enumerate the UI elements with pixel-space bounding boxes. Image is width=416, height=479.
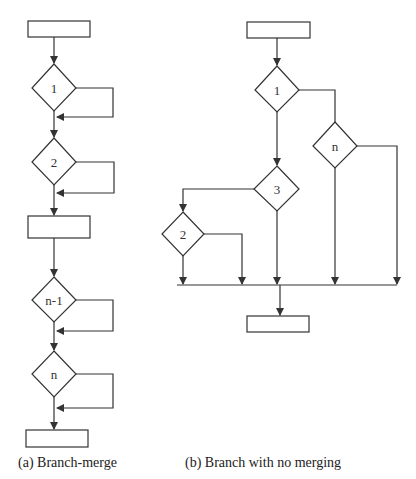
branch-arrow [204, 234, 242, 284]
process-box-start [247, 22, 310, 38]
process-box-start [28, 21, 90, 37]
decision-label: 2 [180, 227, 187, 242]
process-box-end [26, 430, 88, 447]
decision-label: n [51, 367, 58, 382]
process-box-end [247, 316, 309, 332]
branch-arrow [357, 146, 397, 284]
branch-line [299, 90, 335, 122]
diagram-b-branch-no-merging: 1 n 3 2 (b) Branch with no merging [162, 22, 397, 471]
process-box-middle [28, 216, 90, 238]
decision-label: n [332, 139, 339, 154]
branch-arrow [183, 189, 254, 211]
diagram-a-branch-merge: 1 2 n-1 n (a) Branch-merge [18, 21, 117, 471]
caption-a: (a) Branch-merge [18, 455, 117, 471]
decision-label: 2 [51, 155, 58, 170]
decision-label: 3 [274, 182, 281, 197]
flowchart-canvas: 1 2 n-1 n (a) Branch-merge 1 n [0, 0, 416, 479]
caption-b: (b) Branch with no merging [185, 455, 341, 471]
decision-label: 1 [51, 81, 58, 96]
decision-label: 1 [274, 83, 281, 98]
decision-label: n-1 [45, 293, 62, 308]
